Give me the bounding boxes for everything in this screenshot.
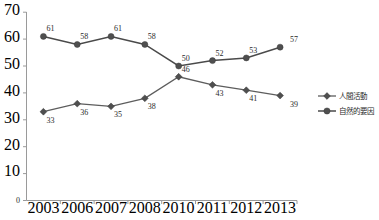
x-tick-label: 2011 bbox=[197, 199, 228, 216]
x-tick-label: 2013 bbox=[264, 199, 296, 216]
series-line bbox=[43, 36, 280, 66]
y-tick-label: 0 bbox=[16, 196, 20, 205]
y-tick-label: 40 bbox=[4, 82, 20, 99]
diamond-marker bbox=[277, 92, 284, 99]
series-line bbox=[43, 77, 280, 112]
data-label: 61 bbox=[114, 24, 122, 33]
legend-item-human-activity[interactable]: 人間活動 bbox=[318, 91, 368, 101]
data-label: 52 bbox=[215, 49, 223, 58]
legend-label: 人間活動 bbox=[339, 91, 368, 101]
data-label: 57 bbox=[290, 35, 298, 44]
circle-marker bbox=[176, 63, 182, 69]
x-tick-label: 2008 bbox=[129, 199, 161, 216]
series-2: 6158615850525357 bbox=[40, 24, 298, 69]
circle-marker bbox=[108, 33, 114, 39]
data-label: 38 bbox=[148, 102, 156, 111]
diamond-marker bbox=[324, 93, 331, 100]
y-tick-label: 30 bbox=[4, 109, 20, 126]
chart-canvas: 0 10 20 30 40 50 60 70 2003 2006 2007 20… bbox=[0, 0, 379, 220]
data-label: 53 bbox=[249, 46, 257, 55]
x-tick-label: 2010 bbox=[163, 199, 195, 216]
data-label: 41 bbox=[249, 94, 257, 103]
data-label: 36 bbox=[80, 108, 88, 117]
legend-item-natural-factors[interactable]: 自然的要因 bbox=[318, 106, 374, 116]
data-label: 33 bbox=[46, 116, 54, 125]
legend: 人間活動 自然的要因 bbox=[318, 91, 374, 116]
series-1: 3336353846434139 bbox=[40, 65, 298, 125]
diamond-marker bbox=[243, 87, 250, 94]
x-tick-label: 2012 bbox=[230, 199, 262, 216]
y-tick-label: 70 bbox=[4, 1, 20, 18]
x-axis-tick-labels: 2003 2006 2007 2008 2010 2011 2012 2013 bbox=[27, 199, 296, 216]
data-label: 61 bbox=[46, 24, 54, 33]
circle-marker bbox=[142, 41, 148, 47]
x-tick-label: 2003 bbox=[27, 199, 59, 216]
circle-marker bbox=[324, 108, 330, 114]
diamond-marker bbox=[40, 108, 47, 115]
y-tick-label: 10 bbox=[4, 162, 20, 179]
data-label: 39 bbox=[290, 100, 298, 109]
circle-marker bbox=[74, 41, 80, 47]
data-label: 35 bbox=[114, 110, 122, 119]
y-axis-ticks bbox=[23, 12, 27, 200]
diamond-marker bbox=[175, 73, 182, 80]
data-label: 58 bbox=[148, 32, 156, 41]
circle-marker bbox=[40, 33, 46, 39]
y-tick-label: 60 bbox=[4, 28, 20, 45]
data-label: 50 bbox=[182, 54, 190, 63]
y-tick-label: 50 bbox=[4, 55, 20, 72]
diamond-marker bbox=[209, 81, 216, 88]
diamond-marker bbox=[74, 100, 81, 107]
plot-area: 33363538464341396158615850525357 bbox=[40, 24, 298, 124]
diamond-marker bbox=[141, 95, 148, 102]
circle-marker bbox=[277, 44, 283, 50]
data-label: 46 bbox=[182, 65, 190, 74]
legend-label: 自然的要因 bbox=[339, 106, 374, 116]
diamond-marker bbox=[108, 103, 115, 110]
circle-marker bbox=[243, 55, 249, 61]
data-label: 58 bbox=[80, 32, 88, 41]
y-tick-label: 20 bbox=[4, 136, 20, 153]
line-chart: 0 10 20 30 40 50 60 70 2003 2006 2007 20… bbox=[0, 0, 379, 220]
data-label: 43 bbox=[215, 89, 223, 98]
x-tick-label: 2006 bbox=[61, 199, 93, 216]
circle-marker bbox=[209, 58, 215, 64]
x-tick-label: 2007 bbox=[95, 199, 127, 216]
y-axis-tick-labels: 0 10 20 30 40 50 60 70 bbox=[4, 1, 20, 205]
